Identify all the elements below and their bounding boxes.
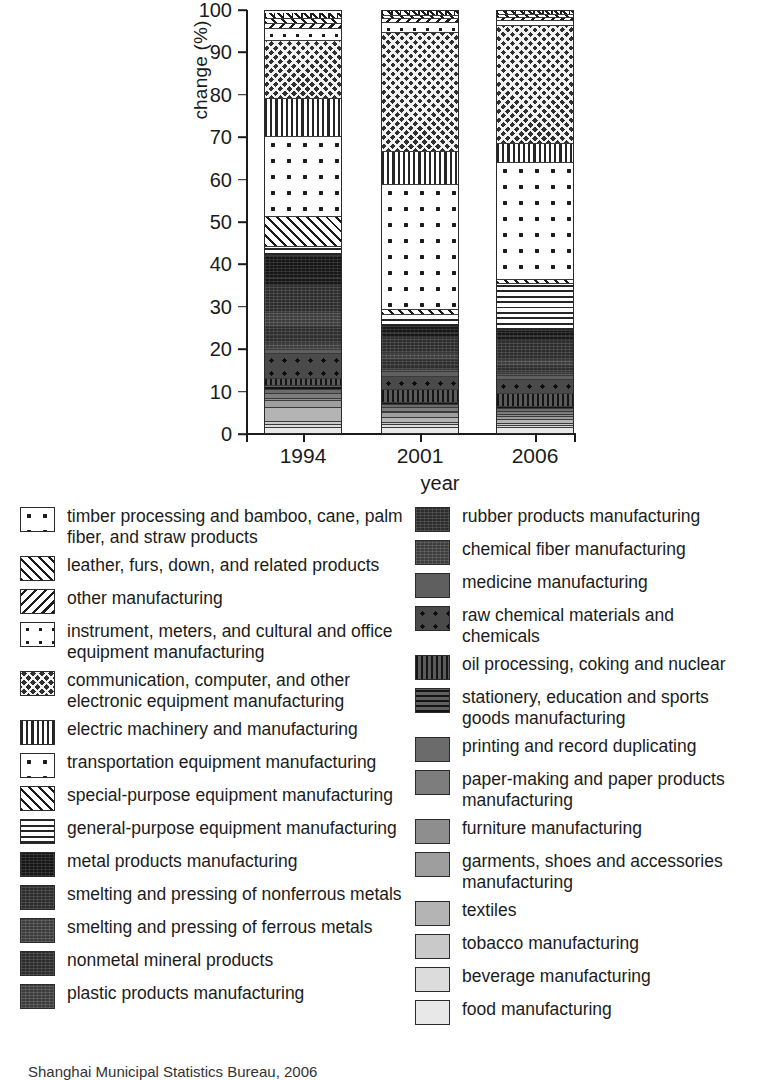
legend-item[interactable]: tobacco manufacturing [415,932,755,959]
legend-swatch-icon [415,688,450,713]
bar-segment[interactable] [497,26,573,144]
legend-item[interactable]: transportation equipment manufacturing [20,751,420,778]
stacked-bar-2006[interactable] [496,10,574,434]
chart-plot-area: change (%) 0102030405060708090100 199420… [0,0,760,500]
y-tick-label-10: 10 [186,382,232,402]
x-axis-end-tick-right [574,433,576,442]
legend-item-label: garments, shoes and accessories manufact… [462,850,755,893]
bar-segment[interactable] [382,338,458,352]
legend-swatch-icon [415,507,450,532]
bar-segment[interactable] [265,408,341,422]
bar-segment[interactable] [497,284,573,331]
legend-swatch-icon [20,671,55,696]
legend-item[interactable]: raw chemical materials and chemicals [415,604,755,647]
legend-item[interactable]: oil processing, coking and nuclear [415,653,755,680]
bar-segment[interactable] [265,41,341,98]
bar-segment[interactable] [265,343,341,350]
legend-item[interactable]: textiles [415,899,755,926]
bar-segment[interactable] [497,380,573,394]
legend-item[interactable]: other manufacturing [20,587,420,614]
bar-segment[interactable] [265,247,341,256]
legend-swatch-icon [415,967,450,992]
bar-segment[interactable] [265,313,341,327]
legend-swatch-icon [20,507,55,532]
legend-item[interactable]: metal products manufacturing [20,850,420,877]
legend-item-label: leather, furs, down, and related product… [67,554,379,576]
x-tick-label-2006: 2006 [475,444,595,468]
bar-segment[interactable] [382,377,458,390]
legend-item[interactable]: smelting and pressing of ferrous metals [20,916,420,943]
bar-segment[interactable] [265,256,341,279]
legend-item[interactable]: medicine manufacturing [415,571,755,598]
bar-segment[interactable] [497,144,573,163]
legend-item[interactable]: timber processing and bamboo, cane, palm… [20,505,420,548]
legend-item[interactable]: communication, computer, and other elect… [20,669,420,712]
legend-item[interactable]: rubber products manufacturing [415,505,755,532]
legend-item[interactable]: smelting and pressing of nonferrous meta… [20,883,420,910]
bar-segment[interactable] [265,286,341,314]
legend-swatch-icon [20,918,55,943]
legend-item-label: medicine manufacturing [462,571,648,593]
legend-item-label: timber processing and bamboo, cane, palm… [67,505,420,548]
legend-item[interactable]: printing and record duplicating [415,735,755,762]
legend-item-label: instrument, meters, and cultural and off… [67,620,420,663]
legend-swatch-icon [415,1000,450,1025]
bar-segment[interactable] [382,185,458,310]
bar-segment[interactable] [382,152,458,185]
legend-item-label: smelting and pressing of ferrous metals [67,916,372,938]
bar-segment[interactable] [265,99,341,137]
stacked-bar-2001[interactable] [381,10,459,434]
legend-item[interactable]: electric machinery and manufacturing [20,718,420,745]
legend-item-label: other manufacturing [67,587,223,609]
legend-swatch-icon [20,622,55,647]
bar-segment[interactable] [265,29,341,42]
bar-segment[interactable] [265,401,341,408]
legend-item[interactable]: instrument, meters, and cultural and off… [20,620,420,663]
legend-item-label: printing and record duplicating [462,735,696,757]
legend-item[interactable]: leather, furs, down, and related product… [20,554,420,581]
y-tick-label-60: 60 [186,170,232,190]
bar-segment[interactable] [382,33,458,152]
bar-segment[interactable] [382,327,458,334]
bar-segment[interactable] [497,394,573,406]
legend-swatch-icon [20,786,55,811]
y-tick-label-80: 80 [186,85,232,105]
bar-segment[interactable] [382,390,458,403]
bar-segment[interactable] [497,163,573,280]
legend-item[interactable]: special-purpose equipment manufacturing [20,784,420,811]
legend-item[interactable]: garments, shoes and accessories manufact… [415,850,755,893]
legend-swatch-icon [415,573,450,598]
source-note: Shanghai Municipal Statistics Bureau, 20… [28,1063,317,1080]
legend-item-label: oil processing, coking and nuclear [462,653,726,675]
bar-segment[interactable] [265,327,341,337]
legend-item[interactable]: chemical fiber manufacturing [415,538,755,565]
legend-swatch-icon [415,606,450,631]
bar-segment[interactable] [265,354,341,379]
y-tick-label-30: 30 [186,297,232,317]
bar-segment[interactable] [382,353,458,360]
legend-item-label: beverage manufacturing [462,965,651,987]
legend-item[interactable]: general-purpose equipment manufacturing [20,817,420,844]
legend-item[interactable]: paper-making and paper products manufact… [415,768,755,811]
x-axis-label-text: year [421,472,460,494]
bar-segment[interactable] [497,341,573,360]
x-tick-label-2001: 2001 [360,444,480,468]
legend-item[interactable]: stationery, education and sports goods m… [415,686,755,729]
legend-item[interactable]: beverage manufacturing [415,965,755,992]
bar-segment[interactable] [265,217,341,247]
legend-item-label: tobacco manufacturing [462,932,639,954]
legend-item[interactable]: nonmetal mineral products [20,949,420,976]
bar-segment[interactable] [265,379,341,386]
x-axis-label: year [0,472,760,495]
legend-item[interactable]: plastic products manufacturing [20,982,420,1009]
bar-segment[interactable] [382,315,458,327]
bar-segment[interactable] [382,23,458,33]
legend-item[interactable]: food manufacturing [415,998,755,1025]
legend-item-label: rubber products manufacturing [462,505,700,527]
y-tick-label-0: 0 [186,424,232,444]
bar-segment[interactable] [265,137,341,218]
legend-swatch-icon [20,819,55,844]
stacked-bars-group [246,10,574,434]
legend-item[interactable]: furniture manufacturing [415,817,755,844]
stacked-bar-1994[interactable] [264,10,342,434]
